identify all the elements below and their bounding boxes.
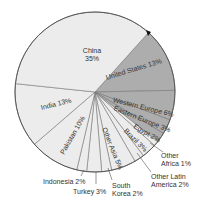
- label-other-latin-america: Other Latin America 2%: [151, 173, 189, 188]
- label-other-africa: Other Africa 1%: [161, 152, 191, 167]
- label-indonesia: Indonesia 2%: [43, 178, 85, 186]
- pie-slices: [15, 12, 175, 172]
- label-china: China 35%: [72, 47, 112, 62]
- label-south-korea: South Korea 2%: [112, 182, 143, 197]
- label-turkey: Turkey 3%: [73, 188, 106, 196]
